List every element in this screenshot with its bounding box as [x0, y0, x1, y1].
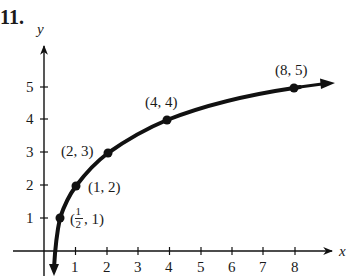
y-tick-label: 2	[26, 177, 34, 193]
point-8-5	[290, 84, 299, 93]
point-label-1-2: (1, 2)	[88, 179, 121, 196]
graph: 11. x y 1 2 3 4 5 6 7 8 1 2 3 4	[0, 0, 348, 276]
x-tick-label: 3	[134, 259, 142, 275]
svg-text:, 1): , 1)	[84, 211, 104, 228]
point-2-3	[104, 149, 113, 158]
x-tick-label: 5	[197, 259, 205, 275]
x-tick-label: 1	[71, 259, 79, 275]
point-label-half-1: ( 1 2 , 1)	[70, 205, 104, 230]
curve-arrow-right-icon	[320, 79, 335, 90]
svg-text:1: 1	[76, 205, 82, 217]
point-label-2-3: (2, 3)	[61, 143, 94, 160]
y-tick-label: 1	[26, 210, 34, 226]
y-tick-label: 4	[26, 111, 34, 127]
x-tick-label: 7	[259, 259, 267, 275]
x-axis-label: x	[338, 243, 346, 259]
y-tick-label: 3	[26, 144, 34, 160]
svg-text:(: (	[70, 211, 75, 228]
problem-number: 11.	[0, 6, 24, 28]
x-tick-label: 8	[291, 259, 299, 275]
x-tick-label: 2	[103, 259, 111, 275]
x-axis: x	[13, 243, 346, 259]
svg-text:2: 2	[76, 218, 82, 230]
y-axis: y	[35, 21, 44, 276]
point-4-4	[163, 116, 172, 125]
point-half-1	[56, 214, 65, 223]
x-tick-label: 4	[165, 259, 173, 275]
point-labels: ( 1 2 , 1) (1, 2) (2, 3) (4, 4) (8, 5)	[61, 62, 308, 230]
y-axis-label: y	[35, 21, 44, 37]
point-label-8-5: (8, 5)	[275, 62, 308, 79]
point-label-4-4: (4, 4)	[145, 94, 178, 111]
x-tick-label: 6	[228, 259, 236, 275]
log-curve	[54, 87, 300, 268]
point-1-2	[72, 182, 81, 191]
curve-arrow-down-icon	[49, 264, 59, 276]
y-tick-label: 5	[26, 79, 34, 95]
